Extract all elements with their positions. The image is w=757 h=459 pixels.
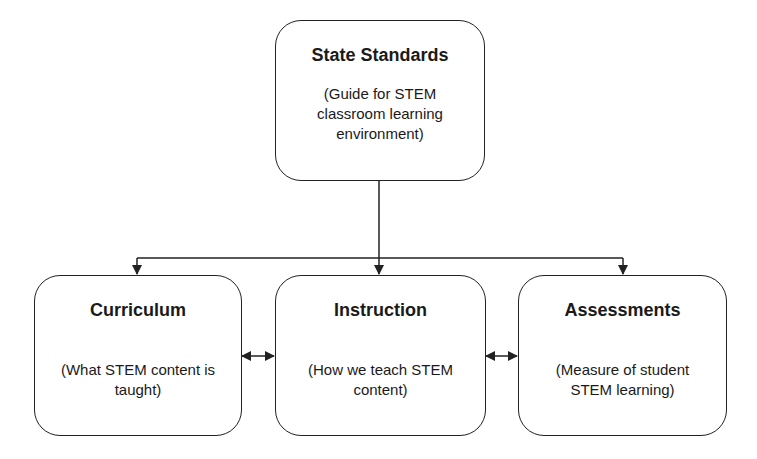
node-description: (Measure of student STEM learning) [539,360,706,400]
node-description: (Guide for STEM classroom learning envir… [298,84,462,144]
node-title: Curriculum [35,300,241,321]
node-description: (How we teach STEM content) [282,360,479,400]
node-title: Instruction [276,300,485,321]
node-assessments: Assessments (Measure of student STEM lea… [518,275,727,436]
node-curriculum: Curriculum (What STEM content is taught) [34,275,242,436]
node-title: State Standards [276,45,484,66]
node-instruction: Instruction (How we teach STEM content) [275,275,486,436]
node-description: (What STEM content is taught) [41,360,235,400]
node-state-standards: State Standards (Guide for STEM classroo… [275,20,485,181]
tree-connector [137,180,623,274]
node-title: Assessments [519,300,726,321]
